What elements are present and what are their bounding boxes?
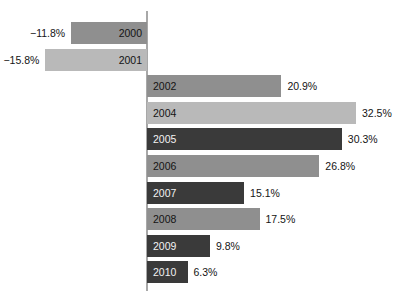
bar-value-label: 30.3% [348, 128, 378, 150]
bar-2004[interactable]: 2004 [147, 102, 356, 124]
bar-value-label: 20.9% [287, 75, 317, 97]
bar-2005[interactable]: 2005 [147, 128, 342, 150]
bar-year-label: 2009 [153, 235, 176, 257]
bar-2008[interactable]: 2008 [147, 208, 260, 230]
plot-area: 2000−11.8%2001−15.8%200220.9%200432.5%20… [0, 0, 402, 300]
bar-row: 2000−11.8% [0, 22, 402, 44]
bar-row: 200432.5% [0, 102, 402, 124]
bar-year-label: 2008 [153, 208, 176, 230]
bar-row: 200817.5% [0, 208, 402, 230]
bar-value-label: 6.3% [194, 261, 218, 283]
bar-row: 200715.1% [0, 182, 402, 204]
bar-year-label: 2001 [119, 49, 142, 71]
bar-value-label: 26.8% [325, 155, 355, 177]
bar-row: 20099.8% [0, 235, 402, 257]
bar-value-label: 9.8% [216, 235, 240, 257]
bar-2002[interactable]: 2002 [147, 75, 281, 97]
bar-value-label: −11.8% [0, 22, 65, 44]
bar-chart: 2000−11.8%2001−15.8%200220.9%200432.5%20… [0, 0, 402, 300]
bar-year-label: 2010 [153, 261, 176, 283]
bar-value-label: 32.5% [362, 102, 392, 124]
bar-value-label: −15.8% [0, 49, 39, 71]
bar-year-label: 2005 [153, 128, 176, 150]
bar-2007[interactable]: 2007 [147, 182, 244, 204]
bar-2001[interactable]: 2001 [45, 49, 147, 71]
bar-year-label: 2000 [119, 22, 142, 44]
bar-2010[interactable]: 2010 [147, 261, 188, 283]
bar-year-label: 2002 [153, 75, 176, 97]
bar-2006[interactable]: 2006 [147, 155, 319, 177]
bar-row: 200530.3% [0, 128, 402, 150]
bar-row: 20106.3% [0, 261, 402, 283]
bar-year-label: 2007 [153, 182, 176, 204]
bar-row: 200220.9% [0, 75, 402, 97]
bar-value-label: 17.5% [266, 208, 296, 230]
bar-row: 2001−15.8% [0, 49, 402, 71]
bar-year-label: 2006 [153, 155, 176, 177]
bar-row: 200626.8% [0, 155, 402, 177]
bar-value-label: 15.1% [250, 182, 280, 204]
bar-year-label: 2004 [153, 102, 176, 124]
bar-2000[interactable]: 2000 [71, 22, 147, 44]
bar-2009[interactable]: 2009 [147, 235, 210, 257]
